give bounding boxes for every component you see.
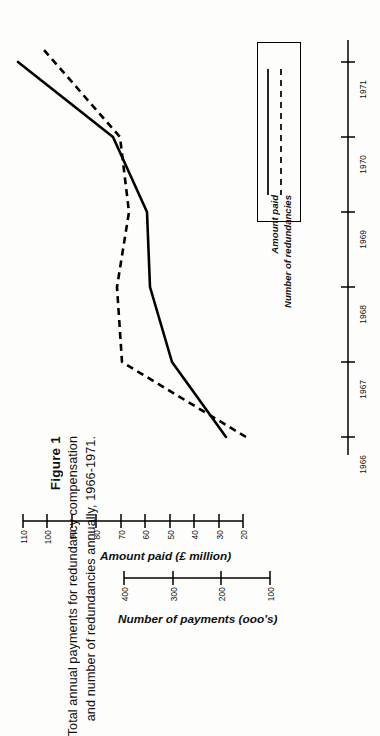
- payments-axis-title: Number of payments (ooo's): [118, 612, 277, 626]
- payments-tick-label-200-wrap: 200: [217, 587, 227, 601]
- payments-tick-label-300: 300: [169, 587, 179, 601]
- payments-tick-label-100-wrap: 100: [266, 587, 276, 601]
- payments-tick-label-400-wrap: 400: [120, 587, 130, 601]
- payments-tick-label-200: 200: [217, 587, 227, 601]
- payments-axis-title-wrap: Number of payments (ooo's): [118, 612, 277, 626]
- payments-tick-label-400: 400: [120, 587, 130, 601]
- payments-tick-label-100: 100: [266, 587, 276, 601]
- payments-tick-label-300-wrap: 300: [169, 587, 179, 601]
